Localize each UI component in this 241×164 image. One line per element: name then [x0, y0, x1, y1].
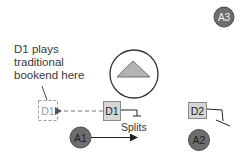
- node-a1[interactable]: A1: [70, 127, 91, 148]
- node-d2-label: D2: [191, 105, 205, 117]
- node-d1-ghost-label: D1: [41, 105, 55, 117]
- splits-label: Splits: [121, 121, 147, 133]
- node-d1[interactable]: D1: [104, 102, 121, 121]
- node-a2[interactable]: A2: [189, 130, 210, 151]
- node-a3-label: A3: [218, 12, 231, 23]
- diagram-canvas: A3 D1 D1 Splits A1 D2 A2: [0, 0, 241, 164]
- node-a1-label: A1: [74, 132, 87, 144]
- node-d1-label: D1: [105, 105, 119, 117]
- caption-leader-line: [42, 86, 47, 100]
- triangle-up-in-circle-icon: [110, 50, 158, 98]
- node-a2-label: A2: [193, 134, 206, 146]
- node-a3[interactable]: A3: [214, 7, 234, 27]
- d2-connector: [207, 109, 230, 126]
- d1-split-connector: [121, 110, 141, 116]
- node-d2[interactable]: D2: [189, 103, 207, 119]
- node-d1-ghost[interactable]: D1: [39, 101, 58, 121]
